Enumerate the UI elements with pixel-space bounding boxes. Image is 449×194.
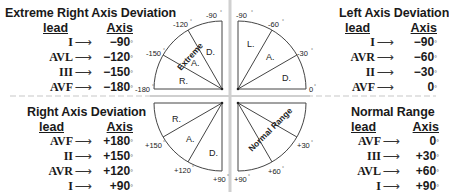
lead-cell: AVL: [43, 50, 73, 65]
axis-cell: −90°: [93, 35, 133, 50]
lead-cell: II: [39, 149, 73, 164]
arrow-icon: ⟶: [73, 179, 93, 194]
arrow-icon: ⟶: [73, 134, 93, 149]
table-row: I ⟶ −90°: [345, 35, 437, 50]
sector-a-bl: A.: [186, 134, 195, 144]
sector-r-tl: R.: [179, 76, 188, 86]
axis-cell: +120°: [93, 164, 133, 179]
lead-cell: AVF: [345, 80, 375, 95]
tick-plus-120: +120: [174, 166, 191, 175]
tick-minus-90-tr: -90: [236, 11, 247, 20]
lead-axis-table: lead Axis AVF ⟶ 0° III ⟶ +30° AVL ⟶ +60°…: [351, 120, 439, 194]
axis-cell: −30°: [395, 65, 437, 80]
sector-d-bl: D.: [209, 148, 218, 158]
header-lead: lead: [39, 120, 73, 134]
panel-normal-range: Normal Range lead Axis AVF ⟶ 0° III ⟶ +3…: [351, 105, 439, 194]
lead-cell: AVF: [39, 134, 73, 149]
arrow-icon: ⟶: [73, 80, 93, 95]
tick-plus-30: +30: [297, 141, 310, 150]
lead-cell: I: [39, 179, 73, 194]
lead-cell: AVR: [39, 164, 73, 179]
quadrant-normal-range: [238, 103, 306, 171]
axis-cell: +180°: [93, 134, 133, 149]
arrow-icon: ⟶: [375, 35, 395, 50]
arrow-icon: ⟶: [73, 149, 93, 164]
table-row: AVR ⟶ −60°: [345, 50, 437, 65]
table-row: III ⟶ +30°: [351, 149, 439, 164]
table-row: AVL ⟶ +60°: [351, 164, 439, 179]
axis-cell: −180°: [93, 80, 133, 95]
lead-cell: I: [351, 179, 381, 194]
tick-plus-90-br: +90: [234, 175, 247, 184]
axis-cell: −90°: [395, 35, 437, 50]
panel-right-axis-deviation: Right Axis Deviation lead Axis AVF ⟶ +18…: [27, 105, 146, 194]
tick-minus-30: -30: [297, 49, 308, 58]
header-axis: Axis: [395, 21, 437, 35]
panel-title: Normal Range: [351, 105, 439, 119]
sector-r-bl: R.: [172, 114, 181, 124]
lead-cell: I: [345, 35, 375, 50]
arrow-icon: ⟶: [381, 134, 401, 149]
lead-cell: I: [43, 35, 73, 50]
arrow-icon: ⟶: [73, 50, 93, 65]
lead-axis-table: lead Axis I ⟶ −90° AVR ⟶ −60° II ⟶ −30° …: [345, 21, 437, 95]
sector-l-tr: L.: [247, 39, 255, 49]
tick-minus-60: -60: [268, 20, 279, 29]
axis-cell: 0°: [401, 134, 439, 149]
header-axis: Axis: [93, 21, 133, 35]
lead-cell: AVR: [345, 50, 375, 65]
panel-title: Extreme Right Axis Deviation: [5, 6, 176, 20]
header-lead: lead: [43, 21, 73, 35]
table-row: AVF ⟶ 0°: [351, 134, 439, 149]
axis-cell: +60°: [401, 164, 439, 179]
table-row: I ⟶ +90°: [351, 179, 439, 194]
table-row: II ⟶ +150°: [39, 149, 133, 164]
panel-left-axis-deviation: Left Axis Deviation lead Axis I ⟶ −90° A…: [339, 6, 449, 95]
header-lead: lead: [345, 21, 375, 35]
arrow-icon: ⟶: [73, 35, 93, 50]
table-row: I ⟶ −90°: [43, 35, 133, 50]
header-axis: Axis: [93, 120, 133, 134]
table-row: III ⟶ −150°: [43, 65, 133, 80]
sector-a-tr: A.: [266, 52, 275, 62]
tick-plus-150: +150: [145, 141, 162, 150]
sector-d-tl: D.: [206, 47, 215, 57]
table-row: AVF ⟶ 0°: [345, 80, 437, 95]
arrow-icon: ⟶: [375, 80, 395, 95]
lead-cell: III: [351, 149, 381, 164]
arrow-icon: ⟶: [375, 50, 395, 65]
axis-cell: −150°: [93, 65, 133, 80]
table-row: AVF ⟶ +180°: [39, 134, 133, 149]
arrow-icon: ⟶: [73, 65, 93, 80]
lead-cell: AVF: [351, 134, 381, 149]
arrow-icon: ⟶: [381, 179, 401, 194]
table-row: AVR ⟶ +120°: [39, 164, 133, 179]
tick-minus-90-tl: -90: [206, 11, 217, 20]
table-row: AVL ⟶ −120°: [43, 50, 133, 65]
table-row: I ⟶ +90°: [39, 179, 133, 194]
panel-title: Left Axis Deviation: [339, 6, 449, 20]
axis-cell: −60°: [395, 50, 437, 65]
header-lead: lead: [351, 120, 381, 134]
table-row: AVF ⟶ −180°: [43, 80, 133, 95]
axis-cell: +30°: [401, 149, 439, 164]
lead-axis-table: lead Axis I ⟶ −90° AVL ⟶ −120° III ⟶ −15…: [43, 21, 133, 95]
axis-cell: +90°: [93, 179, 133, 194]
tick-zero: 0: [309, 85, 313, 94]
lead-cell: III: [43, 65, 73, 80]
lead-cell: AVF: [43, 80, 73, 95]
axis-cell: 0°: [395, 80, 437, 95]
tick-plus-90-bl: +90: [213, 175, 226, 184]
arrow-icon: ⟶: [73, 164, 93, 179]
lead-axis-table: lead Axis AVF ⟶ +180° II ⟶ +150° AVR ⟶ +…: [39, 120, 133, 194]
panel-title: Right Axis Deviation: [27, 105, 146, 119]
arrow-icon: ⟶: [381, 149, 401, 164]
tick-plus-60: +60: [268, 167, 281, 176]
table-row: II ⟶ −30°: [345, 65, 437, 80]
arrow-icon: ⟶: [375, 65, 395, 80]
lead-cell: AVL: [351, 164, 381, 179]
arrow-icon: ⟶: [381, 164, 401, 179]
axis-cell: +90°: [401, 179, 439, 194]
lead-cell: II: [345, 65, 375, 80]
header-axis: Axis: [401, 120, 439, 134]
